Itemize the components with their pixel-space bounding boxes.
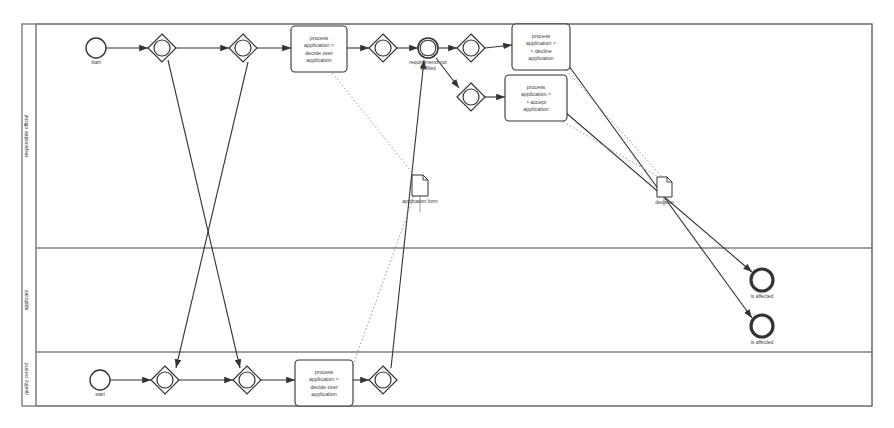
event-label: start [91, 59, 101, 65]
task-label-line: process [315, 369, 334, 375]
event-label: fulfilled [420, 65, 436, 71]
lane-label: quality control [23, 363, 29, 395]
task-label-line: application > [304, 42, 334, 48]
data-object-decision[interactable]: decision [655, 177, 674, 205]
task-accept[interactable]: processapplication >> acceptapplication [505, 75, 567, 121]
event-circle[interactable] [86, 38, 106, 58]
end-event-end-affected-1[interactable]: is affected [751, 269, 774, 299]
event-label: requirements not [409, 59, 447, 65]
task-label-line: application [523, 106, 548, 112]
task-label-line: application > [521, 91, 551, 97]
task-label-line: decide over [310, 384, 338, 390]
pool-boundary [22, 24, 872, 406]
task-label-line: application > [526, 40, 556, 46]
diagram-canvas: responsible officialapplicantquality con… [0, 0, 894, 428]
task-label-line: process [532, 33, 551, 39]
event-label: start [95, 391, 105, 397]
end-event-end-affected-2[interactable]: is affected [751, 315, 774, 345]
event-circle[interactable] [418, 38, 438, 58]
task-decide-over-qc[interactable]: processapplication >decide overapplicati… [295, 360, 353, 406]
bpmn-diagram: responsible officialapplicantquality con… [0, 0, 894, 428]
event-circle[interactable] [751, 315, 773, 337]
lane-label: applicant [23, 289, 29, 310]
event-label: is affected [751, 339, 774, 345]
task-label-line: process [527, 84, 546, 90]
task-label-line: > decline [530, 48, 551, 54]
data-object-label: decision [655, 199, 674, 205]
task-label-line: > accept [526, 99, 547, 105]
task-label-line: application > [309, 376, 339, 382]
task-label-line: application [306, 57, 331, 63]
lane-label: responsible official [23, 115, 29, 158]
data-object-label: application form [402, 198, 437, 204]
task-label-line: application [311, 391, 336, 397]
task-decide-over[interactable]: processapplication >decide overapplicati… [291, 26, 347, 72]
event-circle[interactable] [90, 370, 110, 390]
pool-container [22, 24, 872, 406]
data-object-shape[interactable] [657, 177, 672, 197]
task-label-line: process [310, 35, 329, 41]
data-object-shape[interactable] [412, 175, 428, 196]
event-circle[interactable] [751, 269, 773, 291]
task-label-line: decide over [305, 50, 333, 56]
task-label-line: application [528, 55, 553, 61]
task-decline[interactable]: processapplication >> declineapplication [512, 24, 570, 70]
event-label: is affected [751, 293, 774, 299]
